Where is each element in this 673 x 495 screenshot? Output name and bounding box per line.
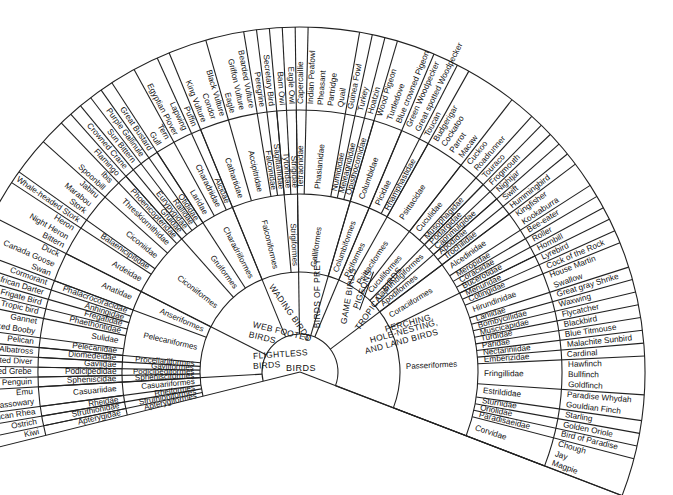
family-label: Tetraonidae: [297, 145, 305, 188]
species-label: Barn Owl: [275, 71, 286, 105]
group-label-prey: BIRDS OF PREY: [313, 259, 322, 329]
order-label: Strigiformes: [288, 223, 298, 266]
divider-line: [335, 386, 466, 436]
species-label: Red Throated Diver: [0, 355, 32, 366]
family-label: Fringillidae: [484, 370, 524, 379]
family-label: Podicipedidae: [65, 368, 116, 376]
group-label-flightless-2: BIRDS: [253, 360, 281, 370]
species-label: Hawfinch: [568, 360, 602, 369]
species-label: Goldfinch: [567, 381, 602, 391]
group-label-prey-text: BIRDS OF PREY: [312, 259, 322, 329]
species-label: Capercaillie: [297, 61, 305, 104]
species-label: Bullfinch: [568, 371, 599, 380]
species-label: Cardinal: [567, 349, 598, 359]
species-label: Great crested Grebe: [0, 368, 32, 376]
species-label: Emu: [16, 388, 33, 397]
bird-classification-fan: BIRDS FLIGHTLESS BIRDS WEB FOOTED BIRDS …: [0, 0, 673, 495]
divider-line: [232, 207, 285, 337]
species-label: Eagle Owl: [286, 67, 295, 105]
root-label: BIRDS: [286, 364, 316, 373]
